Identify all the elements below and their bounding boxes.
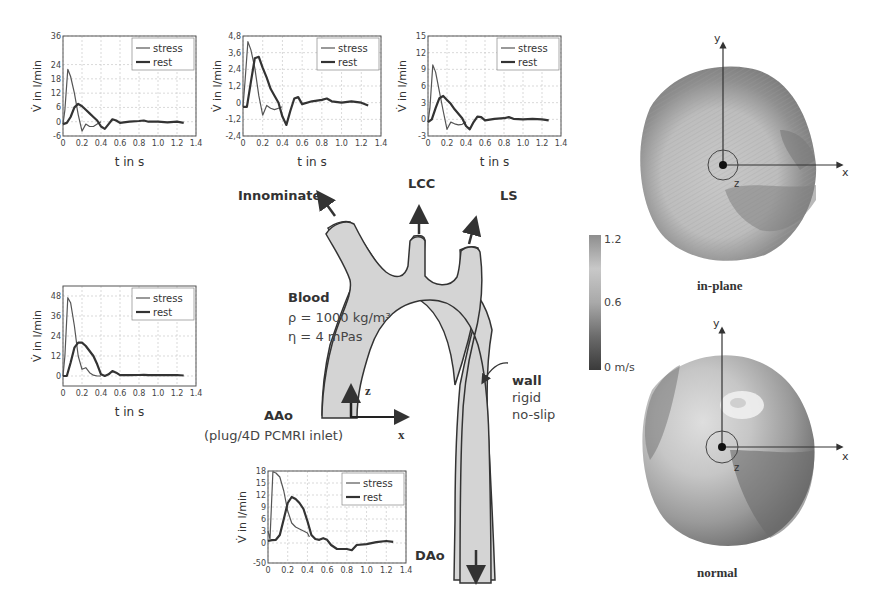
colorbar-max-label: 1.2 xyxy=(604,233,622,246)
label-lcc: LCC xyxy=(408,176,435,191)
label-wall-noslip: no-slip xyxy=(512,407,555,422)
velocity-colorbar xyxy=(589,235,601,370)
label-aao-inlet-type: (plug/4D PCMRI inlet) xyxy=(204,428,343,443)
label-innominate: Innominate xyxy=(238,188,321,203)
ls-arrow xyxy=(469,225,474,244)
cross-section-normal: y x z xyxy=(630,300,882,613)
aorta-vessel xyxy=(322,221,491,583)
svg-text:x: x xyxy=(842,166,849,179)
label-aao: AAo xyxy=(264,408,293,423)
label-wall: wall xyxy=(512,373,542,388)
svg-text:z: z xyxy=(734,462,739,473)
caption-normal: normal xyxy=(697,565,737,581)
svg-text:z: z xyxy=(734,178,739,189)
svg-text:x: x xyxy=(842,450,849,463)
label-dao: DAo xyxy=(415,548,445,563)
innominate-arrow xyxy=(322,198,335,216)
colorbar-mid-label: 0.6 xyxy=(604,296,622,309)
label-inlet-z: z xyxy=(365,383,371,399)
label-inlet-x: x xyxy=(398,427,405,443)
label-viscosity: η = 4 mPas xyxy=(288,329,362,344)
label-wall-rigid: rigid xyxy=(512,390,541,405)
svg-text:y: y xyxy=(714,32,721,45)
wall-pointer-arrow xyxy=(484,363,508,380)
label-density: ρ = 1000 kg/m³ xyxy=(288,310,391,325)
label-ls: LS xyxy=(500,188,518,203)
cross-section-in-plane: y x z xyxy=(630,0,882,300)
caption-in-plane: in-plane xyxy=(697,278,743,294)
svg-text:y: y xyxy=(713,317,720,330)
label-blood: Blood xyxy=(288,290,330,305)
